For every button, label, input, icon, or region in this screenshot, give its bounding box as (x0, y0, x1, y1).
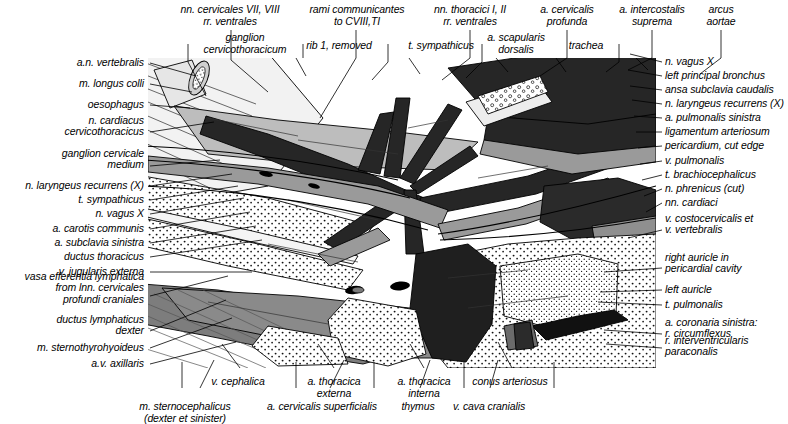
label-ductus-lymphaticus-dexter: ductus lymphaticus dexter (0, 314, 148, 337)
label-right-auricle: right auricle in pericardial cavity (665, 252, 783, 275)
label-n-laryngeus-recurrens-right: n. laryngeus recurrens (X) (665, 98, 783, 110)
label-t-brachiocephalicus: t. brachiocephalicus (665, 169, 783, 181)
label-n-vagus-x-left: n. vagus X (0, 208, 148, 220)
label-a-v-axillaris: a.v. axillaris (0, 358, 148, 370)
label-ansa-subclavia-caudalis: ansa subclavia caudalis (665, 84, 783, 96)
label-t-pulmonalis: t. pulmonalis (665, 299, 783, 311)
label-n-laryngeus-recurrens-left: n. laryngeus recurrens (X) (0, 180, 148, 192)
label-a-pulmonalis-sinistra: a. pulmonalis sinistra (665, 112, 783, 124)
label-n-phrenicus-cut: n. phrenicus (cut) (665, 183, 783, 195)
label-a-n-vertebralis: a.n. vertebralis (0, 57, 148, 69)
label-conus-arteriosus: conus arteriosus (430, 376, 590, 388)
label-v-cava-cranialis: v. cava cranialis (404, 401, 574, 413)
label-m-longus-colli: m. longus colli (0, 78, 148, 90)
label-ductus-thoracicus: ductus thoracicus (0, 251, 148, 263)
label-pericardium-cut-edge: pericardium, cut edge (665, 140, 783, 152)
label-n-cardiacus-cervicothoracicus: n. cardiacus cervicothoracicus (0, 115, 148, 138)
label-left-principal-bronchus: left principal bronchus (665, 70, 783, 82)
label-vasa-efferentia-lymphatica: vasa efferentia lymphatica from lnn. cer… (0, 271, 148, 306)
label-n-vagus-x-right: n. vagus X (665, 56, 783, 68)
label-oesophagus: oesophagus (0, 99, 148, 111)
label-trachea: trachea (491, 40, 681, 52)
anatomical-illustration (148, 58, 656, 368)
label-v-costocervicalis-vertebralis: v. costocervicalis et v. vertebralis (665, 213, 783, 236)
label-nn-cardiaci: nn. cardiaci (665, 197, 783, 209)
label-v-pulmonalis: v. pulmonalis (665, 155, 783, 167)
label-ganglion-cervicale-medium: ganglion cervicale medium (0, 148, 148, 171)
label-r-interventricularis-paraconalis: r. interventricularis paraconalis (665, 335, 783, 358)
label-ligamentum-arteriosum: ligamentum arteriosum (665, 126, 783, 138)
label-arcus-aortae: arcus aortae (626, 4, 788, 27)
label-a-subclavia-sinistra: a. subclavia sinistra (0, 237, 148, 249)
label-t-sympathicus-left: t. sympathicus (0, 194, 148, 206)
label-left-auricle: left auricle (665, 284, 783, 296)
label-a-carotis-communis: a. carotis communis (0, 223, 148, 235)
label-m-sternothyrohyoideus: m. sternothyrohyoideus (0, 342, 148, 354)
